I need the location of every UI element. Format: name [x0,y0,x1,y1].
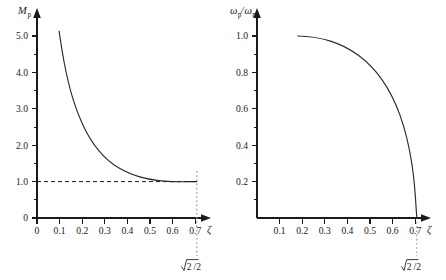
y-axis-tick-labels: 5.0 4.0 3.0 2.0 1.0 0 [16,30,28,223]
x-tick-label: 0.2 [76,225,88,236]
x-tick-label: 0.1 [54,225,66,236]
x-tick-label: 0.6 [387,225,399,236]
chart-svg-mp: M p ζ 5.0 4.0 3.0 2.0 1.0 0 0 0.1 0.2 0.… [0,0,223,280]
y-tick-label: 5.0 [16,30,28,41]
y-axis-label-denominator-base: ω [245,5,252,16]
x-tick-label: 0 [35,225,40,236]
sqrt-radicand: 2 [187,261,192,272]
y-tick-label: 0.6 [236,103,248,114]
y-axis-tick-labels: 1.0 0.8 0.6 0.4 0.2 [236,30,248,187]
chart-svg-wp-wn: ω p / ω n ζ 1.0 0.8 0.6 0.4 0.2 0.1 0.2 … [223,0,446,280]
sqrt-divisor: /2 [194,261,202,272]
sqrt2-over-2-annotation: 2 /2 [402,260,422,272]
x-axis-arrowhead [421,214,431,222]
x-axis-arrowhead [201,214,211,222]
two-panel-figure: M p ζ 5.0 4.0 3.0 2.0 1.0 0 0 0.1 0.2 0.… [0,0,446,280]
y-tick-label: 2.0 [16,140,28,151]
y-tick-label: 1.0 [16,176,28,187]
y-tick-label: 0 [23,212,28,223]
mp-curve [59,31,197,182]
x-tick-label: 0.1 [274,225,286,236]
x-axis-major-ticks [37,218,195,224]
sqrt-radicand: 2 [407,261,412,272]
y-axis-label-denominator-subscript: n [252,11,256,19]
x-axis-tick-labels: 0.1 0.2 0.3 0.4 0.5 0.6 0.7 [274,225,422,236]
y-tick-label: 0.8 [236,67,248,78]
y-tick-label: 1.0 [236,30,248,41]
x-tick-label: 0.3 [319,225,331,236]
x-tick-label: 0.7 [409,225,421,236]
wp-wn-curve [298,36,417,218]
y-tick-label: 0.2 [236,176,248,187]
x-tick-label: 0.4 [341,225,353,236]
x-axis-label-zeta: ζ [207,224,212,236]
y-axis-label-subscript: p [28,11,32,19]
x-axis-label-zeta: ζ [427,224,432,236]
sqrt2-over-2-annotation: 2 /2 [182,260,202,272]
y-tick-label: 0.4 [236,140,248,151]
sqrt-divisor: /2 [414,261,422,272]
y-axis-label-numerator-base: ω [230,5,237,16]
x-axis-tick-labels: 0 0.1 0.2 0.3 0.4 0.5 0.6 0.7 [35,225,202,236]
y-tick-label: 4.0 [16,67,28,78]
y-axis-major-ticks [252,36,258,182]
x-tick-label: 0.5 [364,225,376,236]
chart-panel-wp-wn: ω p / ω n ζ 1.0 0.8 0.6 0.4 0.2 0.1 0.2 … [223,0,446,280]
y-axis-label-mp: M p [17,5,32,19]
y-axis-label-wp-wn: ω p / ω n [230,5,256,19]
x-tick-label: 0.2 [296,225,308,236]
x-axis-major-ticks [280,218,416,224]
y-axis-label-base: M [17,5,28,16]
x-tick-label: 0.3 [99,225,111,236]
x-tick-label: 0.4 [121,225,133,236]
x-tick-label: 0.7 [189,225,201,236]
y-tick-label: 3.0 [16,103,28,114]
x-tick-label: 0.6 [167,225,179,236]
chart-panel-mp: M p ζ 5.0 4.0 3.0 2.0 1.0 0 0 0.1 0.2 0.… [0,0,223,280]
y-axis-arrowhead [33,8,41,18]
x-tick-label: 0.5 [144,225,156,236]
